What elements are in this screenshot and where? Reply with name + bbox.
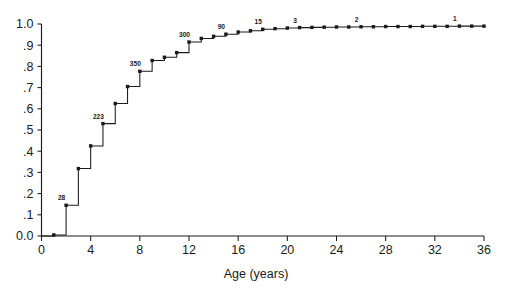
x-tick-label: 8 (136, 243, 143, 257)
y-tick-label: .4 (23, 145, 33, 159)
at-risk-count-label: 2 (355, 16, 359, 23)
data-point-marker (273, 27, 276, 30)
x-tick-label: 0 (38, 243, 45, 257)
data-point-marker (470, 24, 473, 27)
x-tick-label: 28 (379, 243, 393, 257)
data-point-marker (445, 25, 448, 28)
data-point-marker (433, 25, 436, 28)
chart-figure: 0.0.1.2.3.4.5.6.7.8.91.0 048121620242832… (0, 0, 513, 292)
y-tick-label: .7 (23, 81, 33, 95)
at-risk-count-labels: 282233503009015321 (58, 15, 457, 201)
y-tick-label: .3 (23, 166, 33, 180)
at-risk-count-label: 90 (218, 23, 226, 30)
data-point-marker (236, 30, 239, 33)
y-axis-tick-marks (38, 24, 42, 236)
step-curve-line (42, 26, 485, 236)
at-risk-count-label: 350 (130, 60, 141, 67)
y-tick-label: .5 (23, 123, 33, 137)
data-point-marker (163, 56, 166, 59)
data-point-marker (372, 25, 375, 28)
data-point-marker (101, 122, 104, 125)
x-tick-label: 12 (182, 243, 196, 257)
data-point-marker (114, 102, 117, 105)
y-tick-label: .2 (23, 187, 33, 201)
data-point-marker (384, 25, 387, 28)
data-point-marker (323, 25, 326, 28)
at-risk-count-label: 28 (58, 194, 66, 201)
data-point-marker (347, 25, 350, 28)
data-point-marker (77, 167, 80, 170)
y-tick-label: .8 (23, 60, 33, 74)
at-risk-count-label: 1 (453, 15, 457, 22)
at-risk-count-label: 300 (179, 31, 190, 38)
y-tick-label: .6 (23, 102, 33, 116)
cumulative-age-step-chart: 0.0.1.2.3.4.5.6.7.8.91.0 048121620242832… (0, 0, 513, 292)
data-point-marker (261, 28, 264, 31)
x-tick-label: 20 (280, 243, 294, 257)
x-tick-label: 36 (477, 243, 491, 257)
data-point-marker (52, 233, 55, 236)
y-tick-label: .9 (23, 39, 33, 53)
x-tick-label: 24 (330, 243, 344, 257)
data-point-marker (310, 26, 313, 29)
data-point-marker (359, 25, 362, 28)
data-point-marker (150, 59, 153, 62)
at-risk-count-label: 223 (93, 113, 104, 120)
data-point-marker (409, 25, 412, 28)
data-point-marker (126, 85, 129, 88)
at-risk-count-label: 3 (293, 17, 297, 24)
y-tick-label: .1 (23, 208, 33, 222)
x-axis-tick-marks (42, 236, 485, 241)
data-point-marker (298, 26, 301, 29)
data-point-marker (200, 37, 203, 40)
data-point-marker (175, 51, 178, 54)
data-point-marker (458, 24, 461, 27)
data-point-marker (396, 25, 399, 28)
data-point-marker (138, 70, 141, 73)
x-tick-label: 16 (231, 243, 245, 257)
at-risk-count-label: 15 (255, 18, 263, 25)
data-point-marker (89, 144, 92, 147)
data-point-marker (335, 25, 338, 28)
y-tick-label: 1.0 (16, 17, 33, 31)
data-point-marker (212, 35, 215, 38)
x-axis-title: Age (years) (224, 267, 289, 281)
data-point-marker (64, 204, 67, 207)
data-point-marker (421, 25, 424, 28)
x-tick-label: 32 (428, 243, 442, 257)
y-tick-label: 0.0 (16, 229, 33, 243)
data-point-marker (249, 29, 252, 32)
x-tick-label: 4 (87, 243, 94, 257)
data-point-marker (482, 24, 485, 27)
x-axis-tick-labels: 04812162024283236 (38, 243, 491, 257)
data-point-marker (286, 26, 289, 29)
data-point-marker (187, 40, 190, 43)
data-point-marker (224, 32, 227, 35)
data-point-markers (52, 24, 486, 236)
y-axis-tick-labels: 0.0.1.2.3.4.5.6.7.8.91.0 (16, 17, 33, 243)
